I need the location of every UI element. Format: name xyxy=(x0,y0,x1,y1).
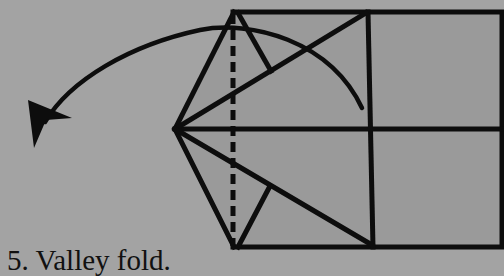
step-caption: 5. Valley fold. xyxy=(7,244,171,276)
arrowhead-icon xyxy=(28,100,72,148)
origami-diagram xyxy=(0,0,504,276)
